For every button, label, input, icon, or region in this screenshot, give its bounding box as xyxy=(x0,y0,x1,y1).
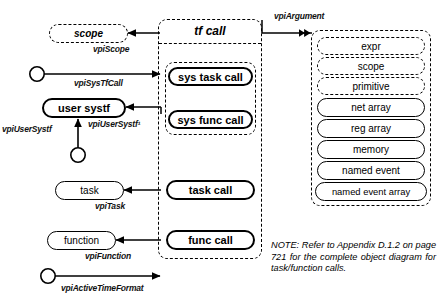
edge-vpiUserSystf-left xyxy=(71,119,85,162)
node-named-event-array[interactable]: named event array xyxy=(315,182,427,201)
tf-call-header-divider xyxy=(159,43,261,44)
label-vpiScope: vpiScope xyxy=(93,44,129,54)
node-task[interactable]: task xyxy=(55,181,124,200)
node-function[interactable]: function xyxy=(47,231,116,250)
node-memory[interactable]: memory xyxy=(317,140,425,159)
edge-vpiArgument xyxy=(262,20,312,33)
node-scope[interactable]: scope xyxy=(49,24,128,43)
label-vpiArgument: vpiArgument xyxy=(274,11,324,21)
edge-vpiActiveTimeFormat xyxy=(41,269,160,283)
node-reg-array[interactable]: reg array xyxy=(317,119,425,138)
node-user-systf[interactable]: user systf xyxy=(42,98,126,118)
tf-call-title: tf call xyxy=(158,19,262,43)
label-vpiFunction: vpiFunction xyxy=(85,251,131,261)
label-vpiActiveTimeFormat: vpiActiveTimeFormat xyxy=(61,283,144,293)
node-net-array[interactable]: net array xyxy=(317,98,425,117)
label-vpiUserSystf-right: vpiUserSystf¹ xyxy=(88,119,140,129)
node-func-call[interactable]: func call xyxy=(166,230,255,250)
label-vpiSysTfCall: vpiSysTfCall xyxy=(74,78,123,88)
node-sys-task-call[interactable]: sys task call xyxy=(168,67,253,86)
node-task-call[interactable]: task call xyxy=(166,180,255,200)
label-vpiTask: vpiTask xyxy=(95,201,125,211)
node-expr[interactable]: expr xyxy=(317,37,425,55)
tf-call-container[interactable] xyxy=(158,19,262,259)
label-vpiUserSystf-left: vpiUserSystf xyxy=(2,124,52,134)
node-named-event[interactable]: named event xyxy=(317,161,425,180)
node-primitive[interactable]: primitive xyxy=(317,77,425,95)
node-sys-func-call[interactable]: sys func call xyxy=(168,110,253,129)
edge-vpiUserSystf-right xyxy=(126,107,161,114)
note-text: NOTE: Refer to Appendix D.1.2 on page 72… xyxy=(271,240,436,275)
node-scope-arg[interactable]: scope xyxy=(317,57,425,75)
